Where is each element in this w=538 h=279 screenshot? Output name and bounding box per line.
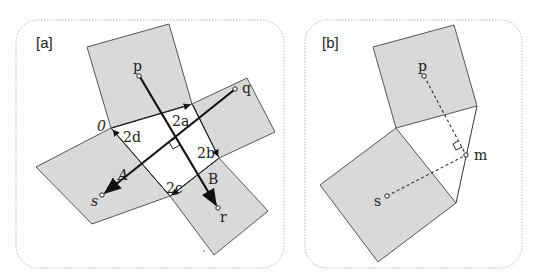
label-2b: 2b: [197, 145, 215, 161]
label-p: p: [418, 58, 427, 74]
label-r: r: [220, 209, 227, 225]
label-s: s: [374, 193, 381, 209]
point-p: [422, 74, 426, 78]
stray-dot: [203, 250, 204, 251]
panel-a-label: [a]: [36, 34, 53, 51]
label-2d: 2d: [123, 129, 141, 145]
label-B: B: [208, 171, 218, 187]
panel-b-label: [b]: [322, 34, 339, 51]
diagram-canvas: [a] p q r s 0 2a 2b 2c 2d A B: [0, 0, 538, 279]
point-p: [137, 74, 141, 78]
point-s: [385, 194, 389, 198]
panel-a: [a] p q r s 0 2a 2b 2c 2d A B: [16, 20, 284, 268]
panel-b: [b] p m s: [305, 20, 522, 268]
label-2a: 2a: [172, 113, 189, 129]
point-m: [464, 153, 468, 157]
label-2c: 2c: [166, 180, 183, 196]
label-origin: 0: [97, 118, 106, 134]
label-q: q: [242, 80, 251, 96]
point-q: [233, 87, 237, 91]
label-m: m: [474, 147, 487, 163]
label-s: s: [91, 193, 98, 209]
label-p: p: [133, 58, 142, 74]
label-A: A: [116, 167, 128, 183]
point-s: [100, 193, 104, 197]
